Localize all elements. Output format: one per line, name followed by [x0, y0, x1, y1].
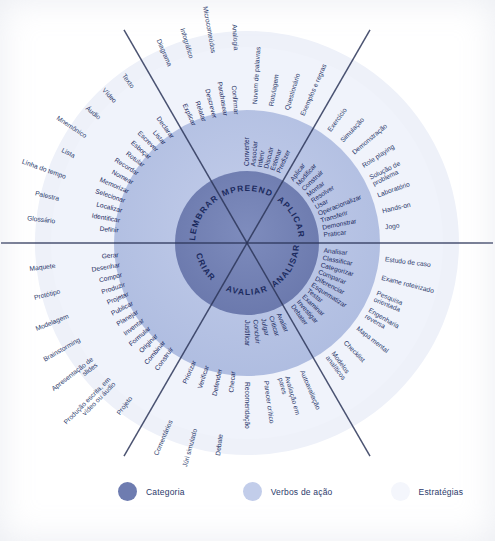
legend-item-estrategias: Estratégias [391, 482, 464, 501]
legend-swatch-estrategias [391, 482, 410, 501]
legend-item-categoria: Categoria [118, 482, 185, 501]
legend-label-categoria: Categoria [146, 487, 185, 497]
bloom-taxonomy-wheel: LEMBRARDefinirIdentificarLocalizarSeleci… [0, 0, 495, 541]
legend: Categoria Verbos de ação Estratégias [0, 482, 495, 501]
legend-swatch-verbos [243, 482, 262, 501]
legend-swatch-categoria [118, 482, 137, 501]
legend-item-verbos: Verbos de ação [243, 482, 333, 501]
strategy-avaliar-3: Recomendação [243, 382, 251, 429]
verb-avaliar-4: Justificar [244, 320, 251, 347]
legend-label-estrategias: Estratégias [419, 487, 464, 497]
wheel-svg: LEMBRARDefinirIdentificarLocalizarSeleci… [0, 0, 495, 541]
legend-label-verbos: Verbos de ação [271, 487, 333, 497]
